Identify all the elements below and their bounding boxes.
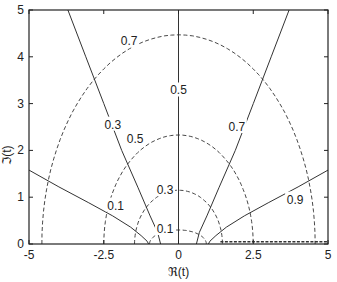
curve-label: 0.5 (170, 83, 187, 97)
x-tick-label: 2.5 (245, 248, 262, 262)
y-tick-label: 2 (17, 143, 24, 157)
curve-label: 0.3 (157, 183, 174, 197)
x-tick-label: -2.5 (93, 248, 114, 262)
x-tick-label: 5 (325, 248, 332, 262)
curve-label: 0.5 (127, 132, 144, 146)
curve-label: 0.3 (104, 118, 121, 132)
y-axis-label: ℑ(t) (0, 145, 14, 164)
x-axis-label: ℜ(t) (168, 265, 189, 279)
y-tick-label: 3 (17, 97, 24, 111)
y-tick-label: 5 (17, 3, 24, 17)
curve-label: 0.1 (107, 199, 124, 213)
y-tick-label: 1 (17, 190, 24, 204)
x-tick-label: -5 (24, 248, 35, 262)
curve-label: 0.9 (287, 193, 304, 207)
chart-background (0, 0, 337, 282)
y-tick-label: 4 (17, 50, 24, 64)
contour-chart: 0.10.30.50.70.90.10.30.50.7 -5-2.502.550… (0, 0, 337, 282)
curve-label: 0.7 (121, 34, 138, 48)
x-tick-label: 0 (175, 248, 182, 262)
curve-label: 0.1 (157, 222, 174, 236)
curve-label: 0.7 (228, 120, 245, 134)
y-tick-label: 0 (17, 237, 24, 251)
